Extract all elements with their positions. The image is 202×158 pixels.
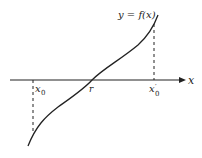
x0-prime-subscript: 0 <box>155 90 159 98</box>
x-axis-arrow-icon <box>179 77 186 83</box>
curve-label: y = f(x) <box>117 9 156 20</box>
x-axis-label: x <box>188 74 195 87</box>
newton-diagram: x y = f(x) x 0 r x ′ 0 <box>0 0 202 158</box>
root-label: r <box>89 84 94 94</box>
x0-subscript: 0 <box>41 89 45 97</box>
